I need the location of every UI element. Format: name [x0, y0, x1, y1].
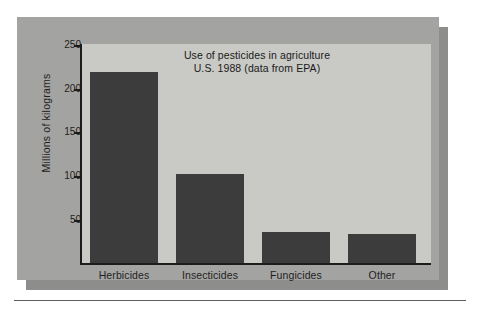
x-label-fungicides: Fungicides [252, 269, 340, 281]
figure-container: 250 200 150 100 50 Millions of kilograms… [0, 0, 478, 310]
y-tick-label-100: 100 [47, 171, 81, 181]
chart-title: Use of pesticides in agriculture [107, 49, 407, 62]
x-label-herbicides: Herbicides [80, 269, 168, 281]
y-tick-label-50: 50 [47, 215, 81, 225]
bottom-divider-rule [14, 300, 466, 301]
x-label-insecticides: Insecticides [166, 269, 254, 281]
bar-herbicides [90, 72, 158, 263]
y-tick-label-150: 150 [47, 127, 81, 137]
y-axis-line [80, 44, 82, 265]
y-tick-label-200: 200 [47, 84, 81, 94]
x-axis-line [80, 263, 431, 265]
y-axis-title: Millions of kilograms [40, 48, 52, 198]
x-label-other: Other [338, 269, 426, 281]
bar-other [348, 234, 416, 263]
bar-fungicides [262, 232, 330, 263]
chart-panel: 250 200 150 100 50 Millions of kilograms… [17, 17, 439, 280]
y-tick-label-250: 250 [47, 40, 81, 50]
bar-insecticides [176, 174, 244, 263]
